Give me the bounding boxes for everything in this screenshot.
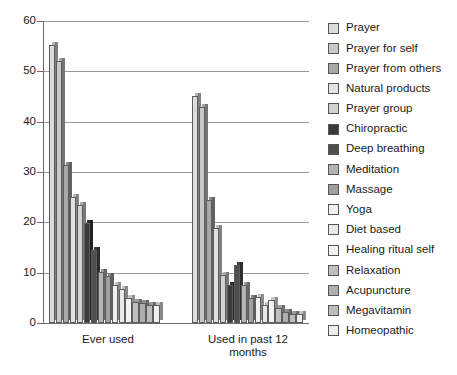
y-tick-mark	[37, 273, 43, 274]
legend-swatch	[328, 285, 339, 296]
legend: PrayerPrayer for selfPrayer from othersN…	[328, 18, 454, 341]
legend-swatch	[328, 103, 339, 114]
bar-face	[248, 298, 254, 323]
legend-item: Prayer from others	[328, 58, 454, 78]
y-tick-label: 50	[10, 66, 36, 78]
bar	[248, 298, 254, 323]
y-axis: 0102030405060	[8, 21, 36, 323]
legend-item: Chiropractic	[328, 119, 454, 139]
bar-face	[84, 223, 90, 323]
legend-item: Diet based	[328, 220, 454, 240]
bar-face	[146, 305, 152, 323]
legend-item: Yoga	[328, 200, 454, 220]
legend-label: Megavitamin	[346, 305, 411, 317]
legend-swatch	[328, 245, 339, 256]
bar	[125, 298, 131, 323]
bar-face	[91, 250, 97, 323]
bar	[234, 265, 240, 323]
bar	[91, 250, 97, 323]
bar	[296, 314, 302, 323]
bar	[227, 285, 233, 323]
bar-face	[282, 312, 288, 323]
legend-label: Deep breathing	[346, 143, 425, 155]
bar-face	[49, 45, 55, 323]
legend-item: Prayer group	[328, 99, 454, 119]
y-tick-mark	[37, 71, 43, 72]
bar	[56, 61, 62, 323]
bar	[220, 275, 226, 323]
bar	[70, 197, 76, 323]
bar	[63, 165, 69, 323]
legend-item: Massage	[328, 180, 454, 200]
y-tick-label: 40	[10, 116, 36, 128]
legend-label: Relaxation	[346, 265, 400, 277]
bar-face	[206, 200, 212, 323]
legend-swatch	[328, 184, 339, 195]
y-tick-mark	[37, 222, 43, 223]
bar	[139, 303, 145, 323]
legend-label: Homeopathic	[346, 325, 414, 337]
legend-swatch	[328, 124, 339, 135]
legend-swatch	[328, 43, 339, 54]
legend-swatch	[328, 305, 339, 316]
bar-face	[289, 314, 295, 323]
bar	[153, 305, 159, 323]
legend-swatch	[328, 144, 339, 155]
bar	[192, 96, 198, 324]
legend-swatch	[328, 23, 339, 34]
bar-face	[192, 96, 198, 324]
legend-label: Chiropractic	[346, 123, 407, 135]
legend-item: Natural products	[328, 79, 454, 99]
bar-face	[77, 205, 83, 323]
bar-face	[241, 285, 247, 323]
legend-swatch	[328, 83, 339, 94]
y-tick-label: 30	[10, 166, 36, 178]
bar-group	[192, 21, 303, 323]
legend-label: Healing ritual self	[346, 244, 434, 256]
bar-face	[275, 308, 281, 323]
bar	[98, 272, 104, 323]
bar	[289, 314, 295, 323]
bar	[206, 200, 212, 323]
legend-item: Prayer for self	[328, 38, 454, 58]
bar	[119, 289, 125, 323]
bar-side	[160, 302, 163, 320]
x-axis-category-label: Used in past 12 months	[188, 333, 308, 359]
bar	[268, 300, 274, 323]
legend-item: Homeopathic	[328, 321, 454, 341]
legend-swatch	[328, 204, 339, 215]
legend-swatch	[328, 265, 339, 276]
legend-label: Yoga	[346, 204, 372, 216]
plot-area	[43, 21, 309, 324]
bar	[146, 305, 152, 323]
bar-face	[112, 285, 118, 323]
legend-label: Prayer from others	[346, 63, 441, 75]
bar-face	[220, 275, 226, 323]
legend-item: Acupuncture	[328, 280, 454, 300]
y-tick-label: 60	[10, 15, 36, 27]
legend-label: Natural products	[346, 83, 430, 95]
bar-face	[262, 305, 268, 323]
bar-face	[125, 298, 131, 323]
bar	[275, 308, 281, 323]
bar	[112, 285, 118, 323]
bar-face	[139, 303, 145, 323]
legend-label: Prayer	[346, 22, 380, 34]
bar-face	[213, 228, 219, 323]
bar	[282, 312, 288, 323]
legend-swatch	[328, 63, 339, 74]
bar-face	[234, 265, 240, 323]
bar	[262, 305, 268, 323]
bar	[241, 285, 247, 323]
legend-item: Megavitamin	[328, 301, 454, 321]
y-tick-mark	[37, 21, 43, 22]
bar-face	[56, 61, 62, 323]
bar-side	[303, 311, 306, 320]
y-tick-label: 0	[10, 317, 36, 329]
legend-swatch	[328, 164, 339, 175]
bar-face	[227, 285, 233, 323]
bar	[84, 223, 90, 323]
figure: 0102030405060 Ever usedUsed in past 12 m…	[0, 0, 457, 375]
bar-face	[119, 289, 125, 323]
legend-swatch	[328, 224, 339, 235]
